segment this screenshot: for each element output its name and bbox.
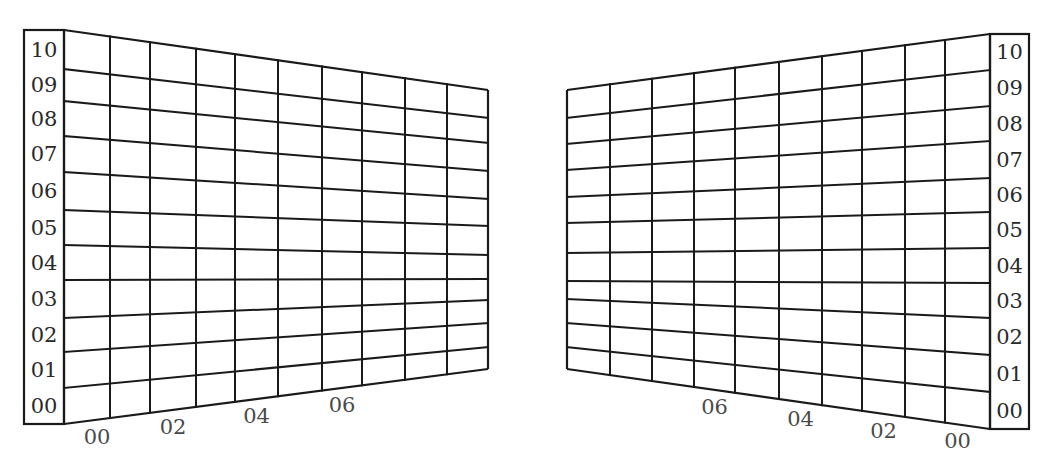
row-label: 04 <box>31 251 58 275</box>
grid-row-line <box>64 30 488 90</box>
row-label: 05 <box>996 218 1023 242</box>
row-label: 00 <box>996 399 1023 423</box>
row-label: 02 <box>996 325 1023 349</box>
row-label: 05 <box>31 216 58 240</box>
grid-row-line <box>64 300 488 318</box>
row-label: 02 <box>31 323 58 347</box>
row-label: 00 <box>31 394 58 418</box>
row-label: 03 <box>31 287 58 311</box>
column-label: 00 <box>84 425 111 449</box>
grid-row-line <box>64 136 488 171</box>
column-label: 02 <box>160 415 187 439</box>
row-label: 01 <box>996 362 1023 386</box>
row-label: 10 <box>31 38 58 62</box>
perspective-grid-diagram: 100908070605040302010000020406 100908070… <box>0 0 1052 461</box>
grid-row-line <box>64 279 488 280</box>
grid-row-line <box>64 101 488 143</box>
row-label: 06 <box>996 183 1023 207</box>
grid-row-line <box>64 347 488 388</box>
column-label: 00 <box>944 429 971 453</box>
row-label: 09 <box>996 76 1023 100</box>
grid-row-line <box>64 210 488 226</box>
right-grid-panel: 100908070605040302010006040200 <box>567 34 1029 453</box>
row-label: 03 <box>996 289 1023 313</box>
column-label: 04 <box>787 407 814 431</box>
row-label: 10 <box>996 40 1023 64</box>
row-label: 07 <box>996 148 1023 172</box>
grid-row-line <box>64 369 488 424</box>
grid-row-line <box>64 245 488 255</box>
column-label: 06 <box>329 393 356 417</box>
row-label: 07 <box>31 142 58 166</box>
diagram-canvas: 100908070605040302010000020406 100908070… <box>0 0 1052 461</box>
row-label: 09 <box>31 73 58 97</box>
row-label: 01 <box>31 358 58 382</box>
row-label: 04 <box>996 254 1023 278</box>
left-grid-panel: 100908070605040302010000020406 <box>24 30 488 449</box>
grid-row-line <box>64 69 488 118</box>
grid-row-line <box>64 172 488 199</box>
row-label: 08 <box>31 107 58 131</box>
row-label: 08 <box>996 112 1023 136</box>
column-label: 04 <box>243 404 270 428</box>
grid-row-line <box>64 323 488 352</box>
column-label: 06 <box>701 395 728 419</box>
row-label: 06 <box>31 179 58 203</box>
column-label: 02 <box>870 419 897 443</box>
